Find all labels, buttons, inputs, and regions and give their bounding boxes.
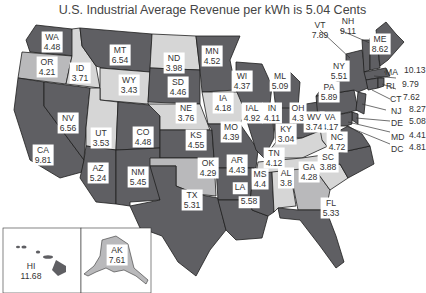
- label-pa: PA5.89: [319, 82, 340, 103]
- label-ny: NY5.51: [329, 61, 350, 82]
- label-wv: WV3.74: [304, 112, 325, 133]
- state-nj: [356, 92, 366, 114]
- label-de-value: 5.08: [409, 117, 426, 127]
- label-me: ME8.62: [370, 34, 391, 55]
- label-vt: VT7.89: [312, 21, 329, 40]
- label-nv: NV6.56: [58, 113, 79, 134]
- label-mi: ML5.09: [270, 71, 291, 92]
- label-ri-value: 9.79: [402, 80, 419, 90]
- label-ne: NE3.76: [176, 103, 197, 124]
- state-ri: [378, 78, 384, 88]
- label-al: AL3.8: [278, 168, 294, 189]
- label-wy: WY3.43: [119, 75, 140, 96]
- label-wa: WA4.48: [42, 32, 63, 53]
- label-la-name: LA: [233, 182, 248, 194]
- label-md-name: MD: [391, 133, 404, 143]
- label-ct-value: 7.62: [403, 93, 420, 103]
- label-mn: MN4.52: [202, 46, 223, 67]
- label-ct-name: CT: [390, 95, 401, 105]
- label-ks: KS4.55: [186, 130, 207, 151]
- label-or: OR4.21: [37, 57, 58, 78]
- label-nh: NH9.11: [340, 17, 356, 36]
- state-ct: [366, 78, 378, 90]
- label-dc-name: DC: [391, 145, 403, 155]
- label-ar: AR4.43: [227, 155, 248, 176]
- label-nm: NM5.45: [128, 167, 149, 188]
- label-ma-name: MA: [385, 68, 398, 78]
- label-in: IN4.11: [262, 103, 282, 124]
- label-ri-name: RI: [386, 82, 395, 92]
- label-wi: WI4.37: [232, 71, 253, 92]
- label-ma-value: 10.13: [404, 66, 426, 76]
- label-nj-value: 8.27: [409, 105, 426, 115]
- label-ok: OK4.29: [198, 158, 219, 179]
- label-ms: MS4.4: [252, 169, 269, 190]
- label-ak: AK7.61: [107, 245, 128, 266]
- label-de-name: DE: [391, 119, 403, 129]
- label-md-value: 4.41: [409, 131, 426, 141]
- label-id: ID3.71: [70, 63, 91, 84]
- label-tn: TN4.12: [264, 148, 285, 169]
- label-az: AZ5.24: [88, 163, 109, 184]
- label-nj-name: NJ: [391, 107, 402, 117]
- label-hi: HI11.68: [21, 262, 42, 281]
- label-dc-value: 4.81: [409, 143, 426, 153]
- label-la-value: 5.58: [239, 196, 260, 208]
- label-ca: CA9.81: [33, 145, 54, 166]
- label-nd: ND3.98: [164, 53, 185, 74]
- label-fl: FL5.33: [321, 198, 342, 219]
- label-ga: GA4.28: [299, 162, 320, 183]
- hawaii-inset-frame: [3, 228, 81, 293]
- label-il: IAL4.92: [242, 103, 263, 124]
- label-ut: UT3.53: [91, 128, 112, 149]
- label-ia: IA4.18: [213, 93, 234, 114]
- label-co: CO4.48: [133, 127, 154, 148]
- label-mo: MO4.39: [221, 122, 242, 143]
- label-sc: SC3.88: [318, 152, 339, 173]
- label-nc: NC4.72: [327, 132, 348, 153]
- label-sd: SD4.46: [168, 77, 189, 98]
- label-ky: KY3.04: [276, 124, 297, 145]
- label-tx: TX5.31: [182, 190, 203, 211]
- label-mt: MT6.54: [110, 45, 131, 66]
